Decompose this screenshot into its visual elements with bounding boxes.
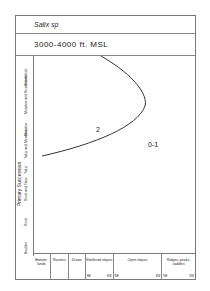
x-cat: Bottom-lands — [33, 254, 51, 279]
zone-label-outer: 0-1 — [148, 141, 158, 148]
boundary-curve — [16, 56, 197, 256]
species-title: Salix sp — [16, 16, 195, 34]
x-cat: Sheltered slopesNESW — [86, 254, 114, 279]
diagram-frame: Salix sp 3000-4000 ft. MSL Primary Succe… — [15, 15, 196, 280]
zone-label-inner: 2 — [96, 126, 100, 133]
x-axis-categories: Bottom-lands Ravines Draws Sheltered slo… — [33, 253, 195, 279]
chart-area: Primary Succession Boulder Rock Rock and… — [16, 56, 195, 256]
x-cat: Ridges, peaks, saddlesNESW — [162, 254, 195, 279]
x-cat: Open slopesNESW — [114, 254, 163, 279]
x-cat: Ravines — [51, 254, 69, 279]
elevation-label: 3000-4000 ft. MSL — [16, 34, 195, 56]
x-cat: Draws — [69, 254, 86, 279]
